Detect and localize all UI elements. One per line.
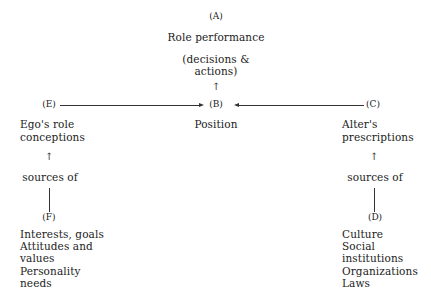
node-f-items: Interests, goals Attitudes and values Pe…: [20, 228, 104, 289]
node-f-label: (F): [42, 212, 55, 223]
node-a-subtitle: (decisions & actions): [182, 53, 249, 77]
node-c-title: Alter's prescriptions: [342, 118, 414, 144]
node-a-label: (A): [209, 11, 223, 22]
node-c-label: (C): [366, 99, 380, 110]
arrowhead-right-icon: [199, 103, 204, 107]
up-arrow-icon-f-to-e: ↑: [45, 152, 53, 162]
up-arrow-icon-b-to-a: ↑: [212, 82, 220, 92]
node-d-items: Culture Social institutions Organization…: [342, 228, 418, 289]
edge-c-to-b-line: [239, 105, 364, 106]
edge-e-to-b-line: [60, 105, 200, 106]
node-d-label: (D): [368, 212, 382, 223]
node-e-title: Ego's role conceptions: [20, 118, 85, 144]
node-e-label: (E): [42, 99, 56, 110]
left-sources-of-label: sources of: [22, 171, 78, 184]
right-sources-of-label: sources of: [347, 171, 403, 184]
node-b-title: Position: [194, 118, 237, 131]
edge-f-to-e-line: [49, 188, 50, 212]
node-b-label: (B): [209, 99, 223, 110]
node-a-title: Role performance: [168, 31, 265, 44]
edge-d-to-c-line: [374, 188, 375, 212]
up-arrow-icon-d-to-c: ↑: [370, 152, 378, 162]
arrowhead-left-icon: [234, 103, 239, 107]
